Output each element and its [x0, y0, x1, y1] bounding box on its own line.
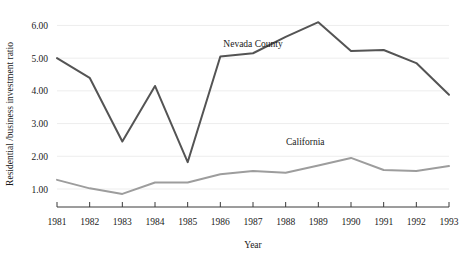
x-tick-label: 1984 — [146, 217, 165, 227]
x-tick-label: 1981 — [48, 217, 67, 227]
series-label-nevada-county: Nevada County — [223, 39, 283, 49]
x-tick-label: 1987 — [244, 217, 263, 227]
x-tick-label: 1983 — [113, 217, 132, 227]
x-axis-title: Year — [244, 240, 262, 250]
line-chart: 1.002.003.004.005.006.00 198119821983198… — [0, 0, 464, 264]
x-tick-label: 1988 — [276, 217, 295, 227]
x-tick-label: 1982 — [80, 217, 99, 227]
x-tick-label: 1985 — [178, 217, 197, 227]
y-tick-label: 1.00 — [31, 185, 48, 195]
x-tick-label: 1990 — [342, 217, 361, 227]
chart-figure: 1.002.003.004.005.006.00 198119821983198… — [0, 0, 464, 264]
y-axis-title: Residential /business investment ratio — [5, 42, 15, 186]
y-tick-label: 5.00 — [31, 54, 48, 64]
x-tick-label: 1989 — [309, 217, 328, 227]
y-tick-label: 6.00 — [31, 21, 48, 31]
y-tick-label: 3.00 — [31, 119, 48, 129]
x-tick-label: 1992 — [407, 217, 426, 227]
series-label-california: California — [286, 137, 325, 147]
x-tick-label: 1993 — [440, 217, 459, 227]
x-tick-label: 1991 — [374, 217, 393, 227]
x-tick-label: 1986 — [211, 217, 230, 227]
y-tick-label: 2.00 — [31, 152, 48, 162]
y-tick-label: 4.00 — [31, 86, 48, 96]
